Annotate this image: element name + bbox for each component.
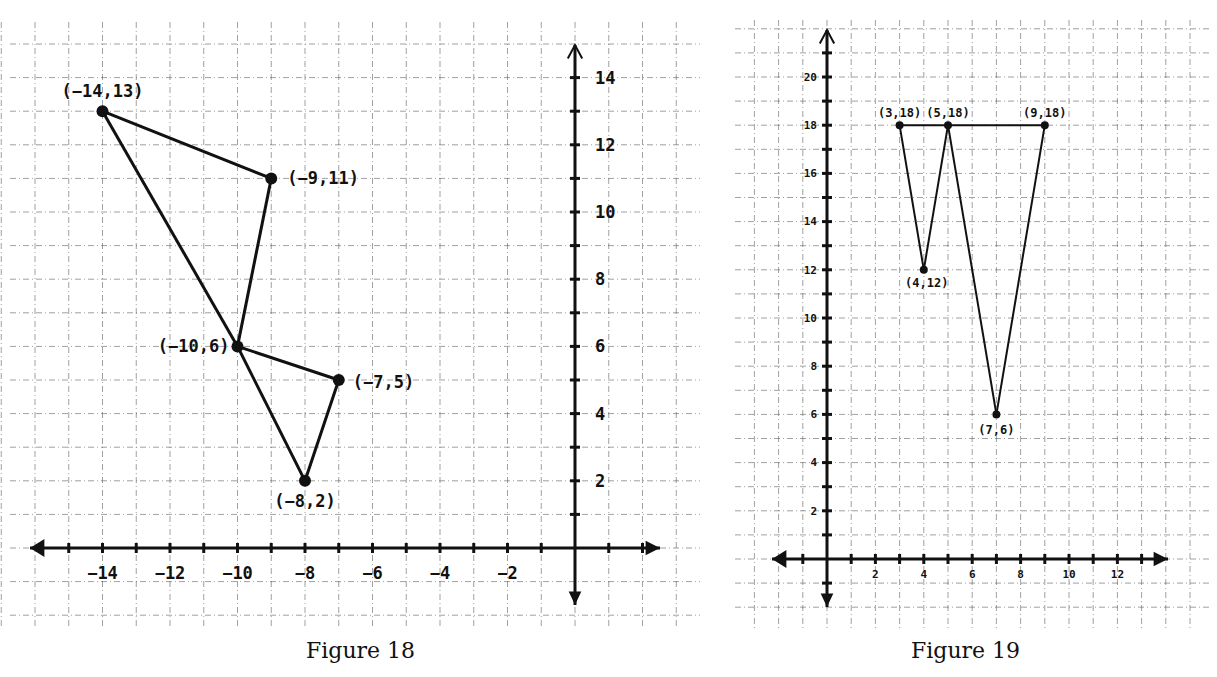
figure-18-caption: Figure 18: [306, 638, 415, 663]
x-tick-label: 4: [920, 568, 927, 581]
y-tick-label: 12: [804, 264, 817, 277]
x-tick-label: 10: [1062, 568, 1075, 581]
point-label: (9,18): [1023, 106, 1066, 120]
y-tick-label: 2: [810, 505, 817, 518]
point-label: (7,6): [978, 423, 1014, 437]
y-tick-label: 8: [810, 360, 817, 373]
figure-19-plot: 246810122468101214161820(3,18)(5,18)(9,1…: [0, 0, 1217, 630]
figure-19-caption: Figure 19: [911, 638, 1020, 663]
x-tick-label: 6: [969, 568, 976, 581]
y-tick-label: 20: [804, 71, 817, 84]
x-axis-left-arrow-icon: [772, 550, 786, 568]
data-point: [920, 266, 928, 274]
data-point: [1041, 121, 1049, 129]
y-tick-label: 14: [804, 215, 818, 228]
point-label: (5,18): [926, 106, 969, 120]
y-tick-label: 6: [810, 408, 817, 421]
point-label: (4,12): [905, 276, 948, 290]
y-tick-label: 10: [804, 312, 817, 325]
data-point: [944, 121, 952, 129]
x-tick-label: 12: [1111, 568, 1124, 581]
y-tick-label: 18: [804, 119, 817, 132]
y-axis-down-arrow-icon: [821, 594, 834, 608]
y-tick-label: 16: [804, 167, 818, 180]
y-tick-label: 4: [810, 456, 817, 469]
data-point: [896, 121, 904, 129]
x-tick-label: 2: [872, 568, 879, 581]
point-label: (3,18): [878, 106, 921, 120]
data-point: [992, 410, 1000, 418]
x-tick-label: 8: [1017, 568, 1024, 581]
